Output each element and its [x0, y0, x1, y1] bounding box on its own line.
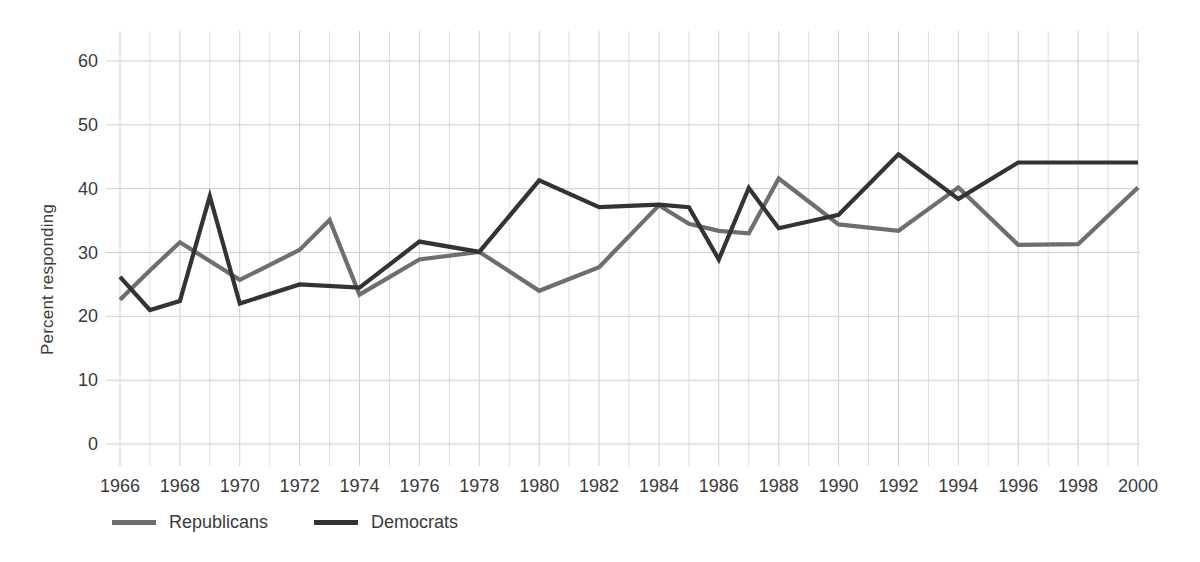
x-tick-label: 2000	[1118, 476, 1158, 497]
x-tick-label: 1966	[100, 476, 140, 497]
legend-item-democrats[interactable]: Democrats	[314, 512, 458, 533]
x-tick-label: 1976	[399, 476, 439, 497]
x-tick-label: 1984	[639, 476, 679, 497]
legend-label: Republicans	[169, 512, 268, 533]
x-tick-label: 1970	[220, 476, 260, 497]
x-tick-label: 1992	[878, 476, 918, 497]
y-tick-label: 0	[58, 434, 98, 455]
x-tick-label: 1968	[160, 476, 200, 497]
x-tick-label: 1986	[699, 476, 739, 497]
x-tick-label: 1996	[998, 476, 1038, 497]
y-tick-label: 30	[58, 242, 98, 263]
y-tick-label: 10	[58, 370, 98, 391]
line-chart: Percent responding 0102030405060 1966196…	[0, 0, 1200, 562]
x-tick-label: 1998	[1058, 476, 1098, 497]
y-tick-label: 60	[58, 51, 98, 72]
y-tick-label: 20	[58, 306, 98, 327]
legend-item-republicans[interactable]: Republicans	[112, 512, 268, 533]
gridlines	[106, 31, 1140, 466]
legend-label: Democrats	[371, 512, 458, 533]
x-tick-label: 1990	[819, 476, 859, 497]
x-tick-label: 1994	[938, 476, 978, 497]
x-tick-label: 1982	[579, 476, 619, 497]
y-axis-title: Percent responding	[38, 204, 58, 355]
x-tick-label: 1988	[759, 476, 799, 497]
legend: RepublicansDemocrats	[112, 512, 504, 533]
x-tick-label: 1974	[339, 476, 379, 497]
x-tick-label: 1972	[280, 476, 320, 497]
x-tick-label: 1978	[459, 476, 499, 497]
legend-swatch-icon	[314, 520, 358, 525]
x-tick-label: 1980	[519, 476, 559, 497]
legend-swatch-icon	[112, 520, 156, 525]
y-tick-label: 40	[58, 178, 98, 199]
y-tick-label: 50	[58, 114, 98, 135]
